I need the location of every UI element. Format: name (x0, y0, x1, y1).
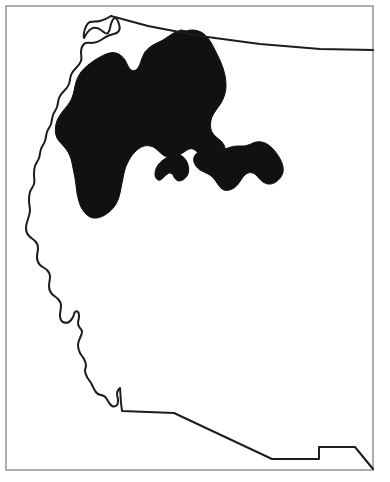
range-map-figure: 6 367 464 Western United States Primary … (0, 0, 390, 482)
map-canvas: 6 367 464 (0, 0, 390, 482)
